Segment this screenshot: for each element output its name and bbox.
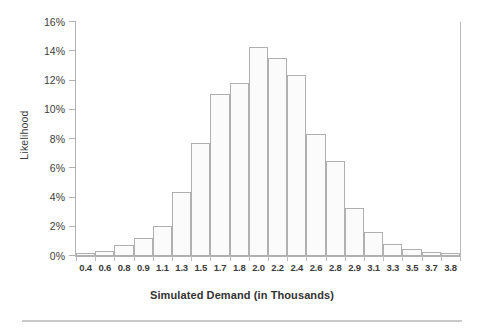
histogram-bar xyxy=(134,238,153,256)
y-axis-tick-label: 14% xyxy=(44,45,65,57)
x-axis-tick-label: 3.3 xyxy=(383,262,402,278)
x-axis-tick-mark xyxy=(95,256,96,261)
x-axis-tick-mark xyxy=(153,256,154,261)
x-axis-tick-mark xyxy=(76,256,77,261)
bar-cell xyxy=(95,22,114,256)
histogram-bar xyxy=(402,249,421,256)
x-axis-tick-mark xyxy=(268,256,269,261)
histogram-bar xyxy=(383,244,402,256)
plot-area: 0%2%4%6%8%10%12%14%16% xyxy=(76,22,460,256)
bar-cell xyxy=(114,22,133,256)
y-axis-tick-label: 6% xyxy=(50,162,65,174)
x-axis-tick-mark xyxy=(402,256,403,261)
histogram-bar xyxy=(268,58,287,256)
x-axis-tick-label: 2.6 xyxy=(306,262,325,278)
x-axis-tick-label: 1.8 xyxy=(230,262,249,278)
bar-cell xyxy=(153,22,172,256)
x-axis-tick-mark xyxy=(364,256,365,261)
bar-cell xyxy=(383,22,402,256)
x-axis-tick-mark xyxy=(210,256,211,261)
x-axis-tick-mark xyxy=(306,256,307,261)
x-axis-tick-label: 1.7 xyxy=(210,262,229,278)
bar-cell xyxy=(326,22,345,256)
x-axis-tick-mark xyxy=(422,256,423,261)
x-axis-tick-mark xyxy=(172,256,173,261)
footer-divider xyxy=(22,320,462,322)
histogram-bar xyxy=(230,83,249,256)
bar-cell xyxy=(422,22,441,256)
x-axis-tick-mark xyxy=(441,256,442,261)
x-axis-tick-label: 3.7 xyxy=(422,262,441,278)
y-axis-title: Likelihood xyxy=(14,0,34,270)
histogram-figure: Likelihood 0%2%4%6%8%10%12%14%16% 0.40.6… xyxy=(0,0,484,330)
histogram-bar xyxy=(153,226,172,256)
histogram-bar xyxy=(249,47,268,256)
y-axis-tick: 16% xyxy=(69,21,76,22)
x-axis-tick-label: 2.0 xyxy=(249,262,268,278)
x-axis-tick-mark xyxy=(191,256,192,261)
x-axis-tick-mark xyxy=(230,256,231,261)
x-axis-tick-labels: 0.40.60.80.91.11.31.51.71.82.02.22.42.62… xyxy=(76,262,460,278)
x-axis-tick-label: 1.5 xyxy=(191,262,210,278)
y-axis-tick-label: 16% xyxy=(44,16,65,28)
bar-cell xyxy=(364,22,383,256)
histogram-bar xyxy=(191,143,210,256)
bar-series xyxy=(76,22,460,256)
x-axis-tick-label: 2.4 xyxy=(287,262,306,278)
bar-cell xyxy=(230,22,249,256)
histogram-bar xyxy=(210,94,229,256)
x-axis-tick-mark xyxy=(326,256,327,261)
bar-cell xyxy=(441,22,460,256)
histogram-bar xyxy=(326,161,345,256)
y-axis-tick: 6% xyxy=(69,167,76,168)
y-axis-tick: 2% xyxy=(69,226,76,227)
y-axis-tick: 12% xyxy=(69,80,76,81)
x-axis-tick-mark xyxy=(345,256,346,261)
y-axis-tick-label: 12% xyxy=(44,74,65,86)
x-axis-tick-label: 2.2 xyxy=(268,262,287,278)
y-axis-tick-label: 10% xyxy=(44,103,65,115)
histogram-bar xyxy=(114,245,133,256)
x-axis-tick-label: 2.8 xyxy=(326,262,345,278)
y-axis-tick: 8% xyxy=(69,138,76,139)
x-axis-title: Simulated Demand (in Thousands) xyxy=(0,289,484,301)
y-axis-tick-label: 2% xyxy=(50,220,65,232)
x-axis-tick-label: 0.4 xyxy=(76,262,95,278)
bar-cell xyxy=(306,22,325,256)
x-axis-tick-label: 3.8 xyxy=(441,262,460,278)
x-axis-tick-mark xyxy=(460,256,461,261)
x-axis-tick-label: 0.8 xyxy=(114,262,133,278)
histogram-bar xyxy=(345,208,364,256)
y-axis-tick-label: 0% xyxy=(50,250,65,262)
bar-cell xyxy=(402,22,421,256)
x-axis-tick-mark xyxy=(383,256,384,261)
bar-cell xyxy=(76,22,95,256)
y-axis-tick: 10% xyxy=(69,109,76,110)
x-axis-tick-mark xyxy=(134,256,135,261)
x-axis-tick-label: 0.6 xyxy=(95,262,114,278)
y-axis-title-text: Likelihood xyxy=(18,110,30,159)
bar-cell xyxy=(172,22,191,256)
bar-cell xyxy=(191,22,210,256)
x-axis-tick-label: 3.1 xyxy=(364,262,383,278)
x-axis-tick-label: 0.9 xyxy=(134,262,153,278)
x-axis-tick-mark xyxy=(114,256,115,261)
bar-cell xyxy=(345,22,364,256)
y-axis-tick: 0% xyxy=(69,255,76,256)
bar-cell xyxy=(268,22,287,256)
bar-cell xyxy=(210,22,229,256)
x-axis-tick-mark xyxy=(249,256,250,261)
x-axis-tick-label: 2.9 xyxy=(345,262,364,278)
y-axis-tick-label: 8% xyxy=(50,133,65,145)
y-axis-tick-label: 4% xyxy=(50,191,65,203)
histogram-bar xyxy=(287,75,306,256)
x-axis-tick-label: 1.3 xyxy=(172,262,191,278)
y-axis-tick: 14% xyxy=(69,50,76,51)
bar-cell xyxy=(249,22,268,256)
x-axis-tick-label: 1.1 xyxy=(153,262,172,278)
histogram-bar xyxy=(306,134,325,256)
histogram-bar xyxy=(364,232,383,256)
x-axis-tick-mark xyxy=(287,256,288,261)
bar-cell xyxy=(134,22,153,256)
histogram-bar xyxy=(172,192,191,256)
